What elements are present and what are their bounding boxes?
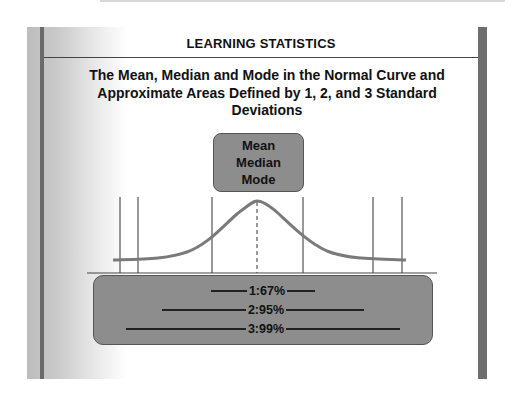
area-row-2: 2:95% (94, 303, 432, 317)
sd-lines (120, 197, 402, 273)
area-label-2: 2:95% (248, 303, 284, 317)
area-label-3: 3:99% (248, 322, 284, 336)
dash-left (211, 290, 247, 292)
dash-right (286, 328, 400, 330)
area-label-1: 1:67% (249, 284, 285, 298)
area-row-3: 3:99% (94, 322, 432, 336)
top-shadow (100, 0, 505, 2)
slide: LEARNING STATISTICS The Mean, Median and… (27, 27, 487, 379)
dash-right (286, 309, 364, 311)
dash-left (126, 328, 246, 330)
dash-left (162, 309, 246, 311)
area-row-1: 1:67% (94, 284, 432, 298)
standard-deviation-areas-box: 1:67% 2:95% 3:99% (93, 275, 433, 345)
normal-curve (113, 201, 406, 260)
dash-right (287, 290, 315, 292)
